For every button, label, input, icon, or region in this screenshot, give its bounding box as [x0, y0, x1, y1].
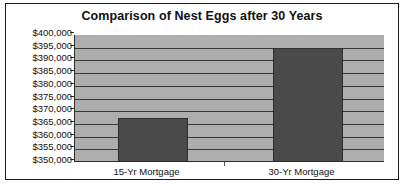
- chart-figure: Comparison of Nest Eggs after 30 Years $…: [0, 0, 404, 185]
- y-axis-tick-label: $395,000: [10, 39, 72, 50]
- y-axis-tick-label: $350,000: [10, 154, 72, 165]
- y-axis-tick-label: $375,000: [10, 90, 72, 101]
- bar: [273, 48, 343, 162]
- y-axis-tick-label: $400,000: [10, 27, 72, 38]
- y-axis: $400,000$395,000$390,000$385,000$380,000…: [6, 4, 72, 185]
- y-axis-tick-label: $355,000: [10, 141, 72, 152]
- y-axis-tick-label: $390,000: [10, 52, 72, 63]
- x-axis-category-label: 30-Yr Mortgage: [224, 166, 379, 177]
- y-axis-tick-mark: [70, 32, 74, 33]
- category-divider-tick: [224, 162, 225, 166]
- x-axis-category-label: 15-Yr Mortgage: [69, 166, 224, 177]
- y-axis-tick-label: $385,000: [10, 65, 72, 76]
- bar: [118, 118, 188, 162]
- y-axis-tick-label: $365,000: [10, 115, 72, 126]
- y-axis-tick-label: $380,000: [10, 77, 72, 88]
- plot-area: [74, 35, 384, 162]
- y-axis-tick-label: $370,000: [10, 103, 72, 114]
- chart-frame: Comparison of Nest Eggs after 30 Years $…: [5, 3, 399, 180]
- y-axis-tick-label: $360,000: [10, 128, 72, 139]
